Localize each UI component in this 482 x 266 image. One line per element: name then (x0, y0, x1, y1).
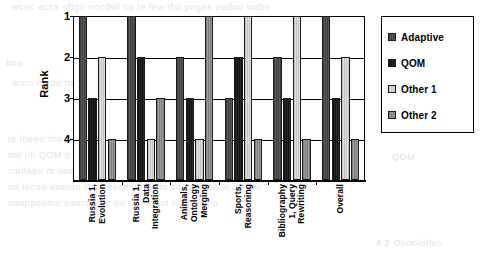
legend-swatch-icon (388, 33, 396, 41)
legend-item-other-2[interactable]: Other 2 (388, 102, 473, 128)
bar-other-1-4 (293, 16, 302, 180)
bar-other-2-3 (254, 139, 263, 180)
legend-swatch-icon (388, 111, 396, 119)
chart-legend: AdaptiveQOMOther 1Other 2 (381, 16, 474, 133)
bar-other-1-1 (147, 139, 156, 180)
bar-other-1-0 (98, 57, 107, 180)
x-label-line: Rewriting (297, 184, 306, 224)
legend-label: QOM (401, 58, 425, 69)
x-tick-separator-1 (122, 180, 123, 185)
bar-other-1-5 (341, 57, 350, 180)
x-label-group-0: Russia 1,Evolution (73, 184, 122, 266)
bar-group-5 (317, 17, 366, 180)
x-label-line: Merging (200, 184, 209, 218)
y-tick-label-2: 2 (48, 52, 70, 63)
bar-group-3 (220, 17, 269, 180)
bar-adaptive-1 (127, 16, 136, 180)
bar-other-2-5 (351, 139, 360, 180)
bar-adaptive-5 (322, 16, 331, 180)
x-tick-separator-5 (316, 180, 317, 185)
bar-other-2-4 (302, 139, 311, 180)
bar-group-2 (171, 17, 220, 180)
legend-item-qom[interactable]: QOM (388, 50, 473, 76)
x-tick-separator-3 (219, 180, 220, 185)
legend-item-other-1[interactable]: Other 1 (388, 76, 473, 102)
y-tick-label-1: 1 (48, 11, 70, 22)
bar-other-2-2 (205, 16, 214, 180)
x-tick-separator-2 (170, 180, 171, 185)
x-axis-labels: Russia 1,EvolutionRussia 1,DataIntegrati… (73, 184, 366, 266)
legend-label: Other 2 (401, 110, 437, 121)
x-label-line: Overall (336, 184, 345, 214)
bar-adaptive-4 (273, 57, 282, 180)
legend-swatch-icon (388, 59, 396, 67)
bar-qom-5 (332, 98, 341, 180)
bar-adaptive-2 (176, 57, 185, 180)
bar-group-0 (74, 17, 123, 180)
x-label-group-5: Overall (316, 184, 365, 266)
legend-label: Other 1 (401, 84, 437, 95)
x-label-line: Bibliography (278, 184, 287, 237)
bar-adaptive-3 (225, 98, 234, 180)
x-label-line: Evolution (98, 184, 107, 224)
bar-group-4 (269, 17, 318, 180)
x-label-group-1: Russia 1,DataIntegration (122, 184, 171, 266)
bar-other-2-0 (108, 139, 117, 180)
x-label-line: Ontology (190, 184, 199, 222)
x-label-line: Reasoning (244, 184, 253, 228)
x-label-line: Animals, (180, 184, 189, 220)
bar-other-2-1 (156, 98, 165, 180)
bar-qom-0 (88, 98, 97, 180)
y-tick-label-3: 3 (48, 93, 70, 104)
x-label-line: Russia 1, (132, 184, 141, 222)
bar-qom-2 (186, 98, 195, 180)
legend-label: Adaptive (401, 32, 444, 43)
x-label-line: Russia 1, (88, 184, 97, 222)
rank-bar-chart: Rank 1234 Russia 1,EvolutionRussia 1,Dat… (0, 0, 482, 266)
x-label-group-4: Bibliography1, QueryRewriting (268, 184, 317, 266)
bar-qom-1 (137, 57, 146, 180)
bar-other-1-3 (244, 16, 253, 180)
bar-group-1 (123, 17, 172, 180)
y-axis-ticks: 1234 (40, 0, 70, 266)
bar-adaptive-0 (79, 16, 88, 180)
y-tick-label-4: 4 (48, 134, 70, 145)
bar-qom-3 (234, 57, 243, 180)
plot-area (73, 16, 365, 180)
x-label-group-3: Sports,Reasoning (219, 184, 268, 266)
x-tick-separator-4 (268, 180, 269, 185)
legend-swatch-icon (388, 85, 396, 93)
x-label-group-2: Animals,OntologyMerging (170, 184, 219, 266)
legend-item-adaptive[interactable]: Adaptive (388, 24, 473, 50)
x-label-line: Sports, (234, 184, 243, 214)
bar-qom-4 (283, 98, 292, 180)
x-label-line: Integration (151, 184, 160, 229)
bar-other-1-2 (195, 139, 204, 180)
